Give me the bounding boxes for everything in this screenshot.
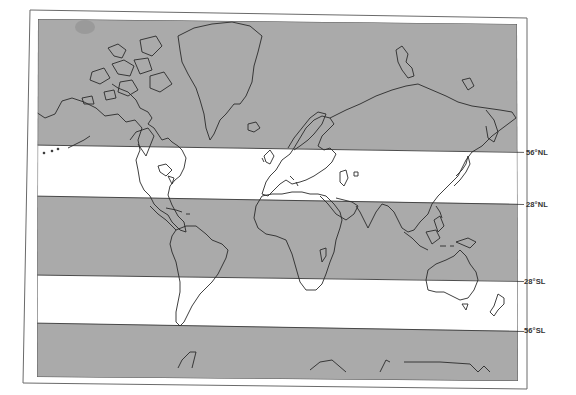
latitude-label-28n: 28°NL — [526, 200, 548, 209]
latitude-label-56s: 56°SL — [524, 326, 545, 335]
latitude-label-56n: 56°NL — [526, 148, 548, 157]
world-map-figure: 56°NL 28°NL 28°SL 56°SL — [0, 0, 576, 395]
tropical-band — [30, 196, 530, 281]
map-area — [30, 10, 530, 395]
smudge-mark — [75, 20, 95, 34]
map-canvas — [0, 0, 576, 395]
label-leaders — [517, 152, 524, 331]
latitude-label-28s: 28°SL — [524, 277, 545, 286]
